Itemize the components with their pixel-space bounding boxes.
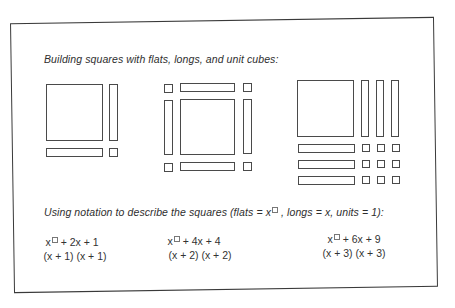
- flat-piece: [180, 99, 235, 155]
- square-2-expanded: x+ 4x + 4: [162, 235, 226, 248]
- unit-piece: [377, 144, 385, 152]
- unit-piece: [377, 176, 385, 184]
- long-piece: [46, 148, 103, 157]
- long-piece: [298, 176, 355, 185]
- square-1-factored: (x + 1) (x + 1): [40, 250, 110, 263]
- long-piece: [391, 80, 399, 137]
- long-piece: [376, 80, 384, 137]
- unit-piece: [362, 176, 370, 184]
- long-piece: [109, 84, 118, 141]
- square-2-factored: (x + 2) (x + 2): [165, 249, 235, 262]
- unit-piece: [392, 160, 400, 168]
- long-piece: [298, 144, 355, 153]
- long-piece: [243, 99, 252, 154]
- unit-piece: [362, 144, 370, 152]
- unit-piece: [243, 83, 252, 92]
- unit-piece: [392, 176, 400, 184]
- unit-piece: [392, 144, 400, 152]
- square-3-expanded: x+ 6x + 9: [322, 233, 386, 246]
- square-1-expanded: x+ 2x + 1: [40, 236, 104, 249]
- notation-heading: Using notation to describe the squares (…: [44, 206, 384, 218]
- unit-piece: [109, 148, 118, 157]
- square-3-factored: (x + 3) (x + 3): [318, 247, 390, 260]
- long-piece: [298, 160, 355, 169]
- unit-piece: [243, 162, 252, 171]
- exponent-box-icon: [174, 236, 180, 242]
- long-piece: [180, 162, 235, 171]
- exponent-box-icon: [52, 237, 58, 243]
- unit-piece: [164, 84, 173, 93]
- long-piece: [180, 83, 235, 92]
- flat-piece: [297, 80, 354, 137]
- figure-title: Building squares with flats, longs, and …: [44, 53, 279, 65]
- exponent-box-icon: [272, 207, 278, 213]
- unit-piece: [377, 160, 385, 168]
- unit-piece: [362, 160, 370, 168]
- long-piece: [361, 80, 369, 137]
- exponent-box-icon: [334, 234, 340, 240]
- flat-piece: [46, 84, 103, 141]
- long-piece: [164, 100, 173, 155]
- unit-piece: [164, 163, 173, 172]
